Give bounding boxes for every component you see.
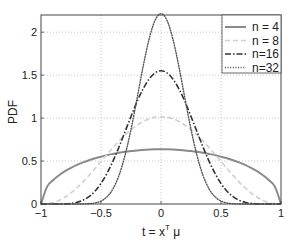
x-tick-label: 0	[158, 207, 164, 219]
legend-label-3: n=16	[252, 47, 279, 61]
legend-label-2: n = 8	[252, 34, 279, 48]
y-tick-label: 0.5	[22, 155, 37, 167]
x-axis-label-base: t = x	[142, 225, 165, 239]
y-tick-label: 1	[31, 112, 37, 124]
pdf-line-chart: −1−0.500.5100.511.52 PDF t = xT μ n = 4n…	[0, 0, 297, 244]
y-tick-label: 2	[31, 26, 37, 38]
x-axis-label-tail: μ	[170, 225, 180, 239]
y-tick-label: 1.5	[22, 69, 37, 81]
x-tick-label: 0.5	[213, 207, 228, 219]
legend: n = 4n = 8n=16n=32	[222, 15, 281, 75]
legend-label-4: n=32	[252, 61, 279, 75]
x-tick-label: −0.5	[90, 207, 112, 219]
y-axis-label: PDF	[6, 100, 20, 124]
x-axis-label: t = xT μ	[142, 223, 180, 239]
y-tick-label: 0	[31, 198, 37, 210]
legend-label-1: n = 4	[252, 20, 279, 34]
x-tick-label: 1	[278, 207, 284, 219]
